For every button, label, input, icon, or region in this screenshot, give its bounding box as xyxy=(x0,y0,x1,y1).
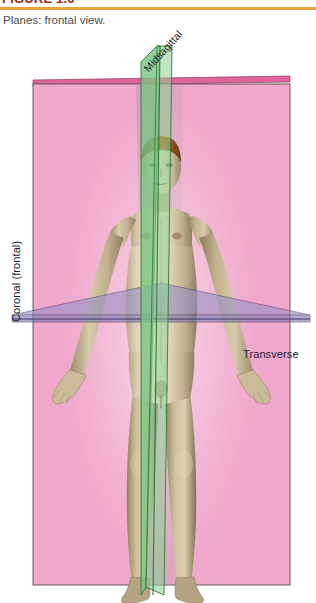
figure-header-rule xyxy=(0,7,316,10)
anatomy-illustration: Midsagittal Coronal (frontal) Transverse xyxy=(0,32,316,603)
right-knee-highlight xyxy=(175,450,193,478)
figure-number-title: FIGURE 1.6 xyxy=(2,0,75,6)
right-nipple xyxy=(172,233,182,240)
figure-page: FIGURE 1.6 Planes: frontal view. xyxy=(0,0,316,603)
label-coronal: Coronal (frontal) xyxy=(10,241,22,322)
label-transverse: Transverse xyxy=(243,348,299,360)
figure-caption: Planes: frontal view. xyxy=(3,14,105,26)
planes-diagram-svg xyxy=(0,32,316,603)
